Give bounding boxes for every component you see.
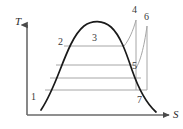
state-point-label-5: 5 [132, 61, 137, 71]
ts-diagram-canvas [0, 0, 183, 129]
state-point-label-2: 2 [58, 37, 63, 47]
superheat-curve-3-4 [124, 20, 136, 46]
state-point-label-7: 7 [137, 95, 142, 105]
state-point-label-1: 1 [31, 92, 36, 102]
entropy-axis-label: S [173, 109, 179, 120]
ts-diagram-figure: T S 1 2 3 4 5 6 7 [0, 0, 183, 129]
state-point-label-4: 4 [132, 5, 137, 15]
state-point-label-3: 3 [92, 33, 97, 43]
reheat-curve-5-6 [136, 26, 147, 68]
temperature-axis-label: T [15, 16, 21, 27]
state-point-label-6: 6 [144, 12, 149, 22]
